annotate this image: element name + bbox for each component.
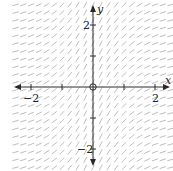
slope-segment [44, 65, 50, 68]
slope-segment [68, 64, 72, 69]
slope-segment [28, 120, 34, 122]
slope-segment [122, 3, 127, 8]
slope-segment [44, 166, 50, 169]
slope-segment [114, 142, 118, 147]
slope-segment [12, 27, 18, 29]
slope-segment [144, 34, 150, 37]
slope-segment [36, 127, 42, 130]
slope-segment [107, 134, 110, 140]
slope-segment [99, 64, 102, 70]
slope-segment [52, 96, 57, 100]
slope-segment [99, 41, 102, 47]
slope-segment [99, 110, 102, 116]
slope-segment [44, 135, 50, 138]
slope-segment [114, 103, 118, 108]
slope-segment [28, 73, 34, 75]
slope-segment [144, 112, 150, 115]
slope-segment [84, 79, 87, 85]
slope-segment [107, 25, 110, 31]
slope-segment [60, 103, 65, 108]
slope-segment [60, 57, 65, 62]
slope-segment [20, 43, 26, 45]
slope-segment [107, 95, 110, 101]
slope-segment [68, 103, 72, 108]
slope-segment [12, 66, 18, 68]
slope-segment [36, 65, 42, 68]
slope-segment [160, 89, 166, 91]
slope-segment [52, 57, 57, 61]
slope-segment [20, 120, 26, 122]
slope-segment [152, 128, 158, 130]
slope-segment [160, 4, 166, 6]
slope-segment [84, 41, 87, 47]
slope-segment [137, 11, 143, 14]
slope-segment [137, 88, 143, 91]
slope-segment [129, 26, 134, 30]
slope-segment [12, 4, 18, 6]
slope-segment [28, 151, 34, 153]
slope-segment [144, 11, 150, 14]
slope-segment [44, 104, 50, 107]
slope-segment [107, 103, 110, 109]
slope-segment [99, 87, 102, 93]
slope-segment [68, 119, 72, 124]
slope-segment [107, 10, 110, 16]
slope-segment [99, 157, 102, 163]
slope-segment [60, 119, 65, 124]
slope-segment [144, 50, 150, 53]
slope-segment [84, 2, 87, 8]
slope-segment [144, 89, 150, 92]
slope-segment [68, 10, 72, 15]
slope-segment [114, 111, 118, 116]
slope-segment [28, 50, 34, 52]
slope-segment [84, 165, 87, 171]
slope-segment [44, 112, 50, 115]
slope-segment [12, 159, 18, 161]
slope-segment [107, 2, 110, 8]
slope-segment [122, 142, 127, 147]
slope-segment [114, 134, 118, 139]
slope-segment [36, 166, 42, 169]
slope-segment [52, 80, 57, 84]
slope-segment [52, 150, 57, 154]
slope-segment [60, 80, 65, 85]
slope-segment [160, 43, 166, 45]
slope-segment [44, 34, 50, 37]
slope-segment [52, 42, 57, 46]
slope-segment [76, 87, 79, 93]
slope-segment [114, 72, 118, 77]
slope-segment [137, 65, 143, 68]
slope-segment [137, 104, 143, 107]
slope-segment [36, 158, 42, 161]
slope-segment [12, 12, 18, 14]
slope-segment [28, 4, 34, 6]
slope-segment [36, 27, 42, 30]
slope-segment [52, 119, 57, 123]
slope-segment [36, 58, 42, 61]
slope-segment [137, 42, 143, 45]
slope-segment [76, 18, 79, 24]
slope-segment [60, 96, 65, 101]
slope-segment [122, 72, 127, 77]
slope-segment [137, 135, 143, 138]
slope-segment [20, 151, 26, 153]
slope-segment [167, 97, 173, 99]
slope-segment [52, 11, 57, 15]
x-axis-label: x [165, 74, 172, 87]
x-tick-label: −2 [23, 92, 39, 105]
slope-segment [20, 128, 26, 130]
slope-segment [28, 58, 34, 60]
slope-segment [122, 18, 127, 23]
slope-segment [129, 49, 134, 53]
slope-segment [12, 136, 18, 138]
slope-segment [84, 10, 87, 16]
slope-segment [44, 42, 50, 45]
slope-segment [167, 4, 173, 6]
slope-segment [44, 50, 50, 53]
slope-segment [99, 17, 102, 23]
slope-segment [152, 166, 158, 168]
slope-segment [144, 158, 150, 161]
slope-segment [76, 56, 79, 62]
slope-segment [114, 126, 118, 131]
slope-segment [160, 66, 166, 68]
